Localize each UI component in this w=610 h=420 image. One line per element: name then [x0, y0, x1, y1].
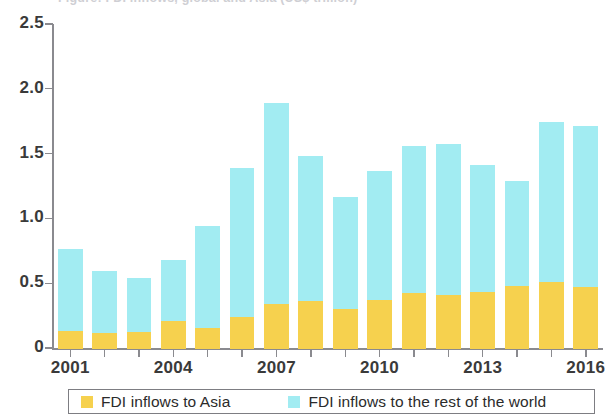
x-axis-tick: [138, 349, 139, 357]
bar-segment-rest-of-world: [470, 165, 495, 292]
bar-segment-rest-of-world: [367, 171, 392, 299]
bar-segment-asia: [264, 304, 289, 349]
x-axis-tick: [104, 349, 105, 357]
legend-item-rest: FDI inflows to the rest of the world: [288, 390, 546, 413]
y-axis-label: 1.0: [0, 207, 44, 227]
bar-segment-rest-of-world: [333, 197, 358, 308]
bar-2008: [298, 156, 323, 349]
x-axis-tick: [276, 349, 277, 357]
x-axis-label: 2010: [350, 358, 410, 378]
bar-2006: [230, 168, 255, 349]
x-axis-tick: [448, 349, 449, 357]
bar-segment-asia: [367, 300, 392, 349]
bar-2009: [333, 197, 358, 349]
bar-segment-asia: [58, 331, 83, 349]
y-axis-tick: [45, 153, 53, 154]
x-axis-tick: [516, 349, 517, 357]
y-axis-label: 0.5: [0, 272, 44, 292]
bar-segment-asia: [230, 317, 255, 349]
bar-2013: [470, 165, 495, 349]
x-axis-label: 2007: [246, 358, 306, 378]
bar-segment-rest-of-world: [58, 249, 83, 331]
bar-2010: [367, 171, 392, 349]
bar-segment-asia: [195, 328, 220, 349]
x-axis-label: 2001: [40, 358, 100, 378]
y-axis-tick: [45, 88, 53, 89]
bar-segment-rest-of-world: [161, 260, 186, 321]
y-axis-label: 1.5: [0, 143, 44, 163]
bar-2003: [127, 278, 152, 349]
x-axis-tick: [482, 349, 483, 357]
y-axis-tick: [45, 23, 53, 24]
bar-segment-asia: [161, 321, 186, 350]
x-axis-tick: [345, 349, 346, 357]
x-axis-label: 2016: [556, 358, 610, 378]
bar-segment-rest-of-world: [573, 126, 598, 287]
y-axis-label: 2.0: [0, 78, 44, 98]
y-axis-tick: [45, 283, 53, 284]
x-axis-label: 2013: [453, 358, 513, 378]
legend-label-rest: FDI inflows to the rest of the world: [308, 393, 546, 411]
x-axis-tick: [551, 349, 552, 357]
bar-segment-rest-of-world: [195, 226, 220, 328]
bar-2011: [402, 146, 427, 349]
bar-segment-asia: [333, 309, 358, 349]
x-axis-tick: [241, 349, 242, 357]
bar-chart: 00.51.01.52.02.5 20012004200720102013201…: [0, 0, 610, 380]
bar-segment-rest-of-world: [127, 278, 152, 332]
legend-swatch-rest: [288, 396, 300, 408]
bar-2014: [505, 181, 530, 349]
bar-segment-rest-of-world: [539, 122, 564, 281]
bar-segment-rest-of-world: [436, 144, 461, 294]
bar-2004: [161, 260, 186, 349]
y-axis-tick: [45, 347, 53, 348]
bar-segment-asia: [505, 286, 530, 350]
bar-segment-rest-of-world: [402, 146, 427, 294]
x-axis-tick: [70, 349, 71, 357]
bar-segment-asia: [470, 292, 495, 349]
bar-2001: [58, 249, 83, 349]
bar-2016: [573, 126, 598, 349]
bar-segment-rest-of-world: [92, 271, 117, 333]
bar-segment-rest-of-world: [230, 168, 255, 317]
bar-segment-asia: [92, 333, 117, 349]
y-axis-label: 0: [0, 337, 44, 357]
x-axis-label: 2004: [143, 358, 203, 378]
bar-segment-asia: [402, 293, 427, 349]
chart-legend: FDI inflows to Asia FDI inflows to the r…: [68, 389, 595, 414]
bar-2007: [264, 103, 289, 349]
legend-swatch-asia: [81, 396, 93, 408]
x-axis-tick: [207, 349, 208, 357]
bar-segment-rest-of-world: [264, 103, 289, 304]
x-axis-tick: [379, 349, 380, 357]
legend-label-asia: FDI inflows to Asia: [101, 393, 230, 411]
x-axis-tick: [173, 349, 174, 357]
legend-item-asia: FDI inflows to Asia: [81, 390, 230, 413]
x-axis-tick: [585, 349, 586, 357]
bar-segment-rest-of-world: [505, 181, 530, 286]
y-axis-tick: [45, 218, 53, 219]
bar-segment-asia: [436, 295, 461, 349]
y-axis-label: 2.5: [0, 13, 44, 33]
bar-segment-rest-of-world: [298, 156, 323, 301]
x-axis-tick: [413, 349, 414, 357]
bar-segment-asia: [298, 301, 323, 349]
bar-2005: [195, 226, 220, 349]
bar-segment-asia: [573, 287, 598, 349]
bar-2015: [539, 122, 564, 349]
bar-segment-asia: [539, 282, 564, 349]
bar-2002: [92, 271, 117, 349]
plot-area: [53, 24, 603, 349]
x-axis-tick: [310, 349, 311, 357]
bar-segment-asia: [127, 332, 152, 349]
bar-2012: [436, 144, 461, 349]
